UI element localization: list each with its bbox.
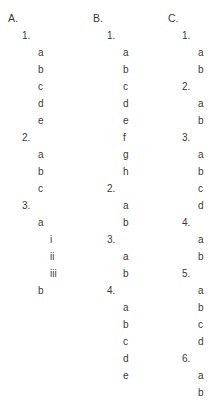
outline-item-level-1: 2.: [160, 78, 221, 95]
outline-document: A.1.abcde2.abc3.aiiiiiibB.1.abcdefgh2.ab…: [0, 0, 221, 405]
outline-column-a: A.1.abcde2.abc3.aiiiiiib: [0, 0, 86, 299]
outline-item-level-2: c: [0, 180, 86, 197]
outline-item-level-3: ii: [0, 248, 86, 265]
outline-item-level-2: a: [85, 197, 171, 214]
outline-item-level-2: g: [85, 146, 171, 163]
outline-item-level-2: a: [0, 44, 86, 61]
outline-item-level-1: 3.: [0, 197, 86, 214]
outline-item-level-2: c: [85, 78, 171, 95]
outline-item-level-2: f: [85, 129, 171, 146]
outline-item-level-2: b: [85, 214, 171, 231]
outline-item-level-2: d: [85, 350, 171, 367]
outline-item-level-2: b: [85, 61, 171, 78]
outline-item-level-2: b: [160, 112, 221, 129]
outline-item-level-2: b: [85, 316, 171, 333]
outline-item-level-2: e: [0, 112, 86, 129]
outline-item-level-2: a: [85, 299, 171, 316]
outline-item-level-2: a: [160, 146, 221, 163]
outline-item-level-2: b: [0, 282, 86, 299]
outline-column-label-a: A.: [0, 0, 86, 27]
outline-column-b: B.1.abcdefgh2.ab3.ab4.abcde: [85, 0, 171, 384]
outline-item-level-2: b: [0, 163, 86, 180]
outline-column-c: C.1.ab2.ab3.abcd4.ab5.abcd6.ab7.ab8.ab: [160, 0, 221, 405]
outline-item-level-2: a: [160, 231, 221, 248]
outline-item-level-1: 2.: [0, 129, 86, 146]
outline-item-level-1: 6.: [160, 350, 221, 367]
outline-item-level-2: b: [85, 265, 171, 282]
outline-item-level-2: e: [85, 112, 171, 129]
outline-item-level-2: d: [85, 95, 171, 112]
outline-item-level-2: a: [0, 214, 86, 231]
outline-item-level-2: b: [160, 163, 221, 180]
outline-item-level-2: d: [160, 197, 221, 214]
outline-item-level-2: c: [160, 316, 221, 333]
outline-item-level-2: a: [85, 248, 171, 265]
outline-item-level-1: 1.: [85, 27, 171, 44]
outline-item-level-2: a: [160, 95, 221, 112]
outline-item-level-2: b: [0, 61, 86, 78]
outline-item-level-2: b: [160, 61, 221, 78]
outline-item-level-2: a: [160, 367, 221, 384]
outline-item-level-2: b: [160, 299, 221, 316]
outline-item-level-1: 3.: [160, 129, 221, 146]
outline-item-level-2: a: [160, 44, 221, 61]
outline-column-label-b: B.: [85, 0, 171, 27]
outline-item-level-2: h: [85, 163, 171, 180]
outline-item-level-2: e: [85, 367, 171, 384]
outline-item-level-3: iii: [0, 265, 86, 282]
outline-item-level-2: d: [160, 333, 221, 350]
outline-item-level-1: 3.: [85, 231, 171, 248]
outline-item-level-1: 5.: [160, 265, 221, 282]
outline-item-level-1: 4.: [85, 282, 171, 299]
outline-item-level-2: c: [0, 78, 86, 95]
outline-item-level-3: i: [0, 231, 86, 248]
outline-item-level-2: a: [85, 44, 171, 61]
outline-column-label-c: C.: [160, 0, 221, 27]
outline-item-level-2: b: [160, 384, 221, 401]
outline-item-level-2: c: [85, 333, 171, 350]
outline-item-level-1: 1.: [160, 27, 221, 44]
outline-item-level-1: 7.: [160, 401, 221, 405]
outline-item-level-2: a: [0, 146, 86, 163]
outline-item-level-2: a: [160, 282, 221, 299]
outline-item-level-1: 1.: [0, 27, 86, 44]
outline-item-level-2: d: [0, 95, 86, 112]
outline-item-level-1: 4.: [160, 214, 221, 231]
outline-item-level-1: 2.: [85, 180, 171, 197]
outline-item-level-2: c: [160, 180, 221, 197]
outline-item-level-2: b: [160, 248, 221, 265]
